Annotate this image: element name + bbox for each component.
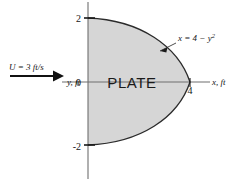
inlet-velocity-label: U = 3 ft/s (9, 62, 44, 72)
flow-direction-arrow (10, 71, 64, 82)
diagram-svg: U = 3 ft/s y, ft 0 2 -2 4 x, ft PLATE x … (0, 0, 234, 181)
x-axis-label: x, ft (211, 77, 226, 87)
origin-tick-label: 0 (76, 77, 81, 88)
tick-label-x-4: 4 (188, 85, 193, 96)
tick-label-y-2: 2 (76, 13, 81, 24)
curve-equation-text: x = 4 − y (177, 33, 212, 43)
curve-equation-label: x = 4 − y2 (177, 32, 216, 43)
curve-equation-exponent: 2 (212, 32, 216, 39)
figure-canvas: U = 3 ft/s y, ft 0 2 -2 4 x, ft PLATE x … (0, 0, 234, 181)
plate-region-label: PLATE (107, 74, 156, 91)
tick-label-y-minus2: -2 (73, 141, 81, 152)
